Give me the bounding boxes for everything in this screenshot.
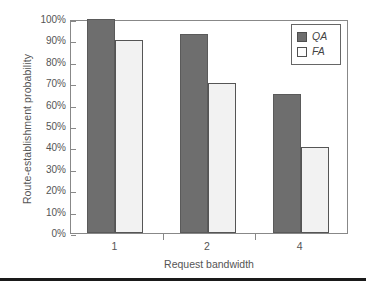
y-tick-label: 30% <box>30 164 66 176</box>
x-tick-label: 2 <box>187 240 227 252</box>
legend-label-qa: QA <box>312 31 327 42</box>
y-tick-label: 20% <box>30 185 66 197</box>
y-tick-label: 50% <box>30 121 66 133</box>
bar-qa-2 <box>180 34 208 233</box>
y-tick-label: 10% <box>30 207 66 219</box>
x-tick-separator <box>255 234 256 240</box>
y-tick-mark <box>71 235 76 236</box>
legend-item-fa: FA <box>297 44 335 59</box>
y-tick-label: 0% <box>30 228 66 240</box>
page-bottom-rule <box>0 278 366 281</box>
y-tick-label: 80% <box>30 57 66 69</box>
bar-chart-figure: Route-establishment probability 100%90%8… <box>0 0 366 286</box>
x-axis-title: Request bandwidth <box>70 258 348 270</box>
legend-label-fa: FA <box>312 46 325 57</box>
legend-swatch-qa-icon <box>297 32 307 42</box>
bar-qa-4 <box>273 94 301 233</box>
x-tick-separator <box>163 234 164 240</box>
bar-fa-4 <box>301 147 329 233</box>
y-axis-tick-labels: 100%90%80%70%60%50%40%30%20%10%0% <box>30 14 66 234</box>
y-tick-label: 90% <box>30 35 66 47</box>
legend-item-qa: QA <box>297 29 335 44</box>
legend-swatch-fa-icon <box>297 47 307 57</box>
bar-qa-1 <box>87 19 115 233</box>
y-tick-label: 40% <box>30 142 66 154</box>
y-tick-label: 60% <box>30 100 66 112</box>
y-tick-label: 100% <box>30 14 66 26</box>
bar-fa-1 <box>115 40 143 233</box>
bar-fa-2 <box>208 83 236 233</box>
y-tick-label: 70% <box>30 78 66 90</box>
chart-legend: QA FA <box>291 24 341 65</box>
x-tick-label: 4 <box>280 240 320 252</box>
x-tick-label: 1 <box>94 240 134 252</box>
